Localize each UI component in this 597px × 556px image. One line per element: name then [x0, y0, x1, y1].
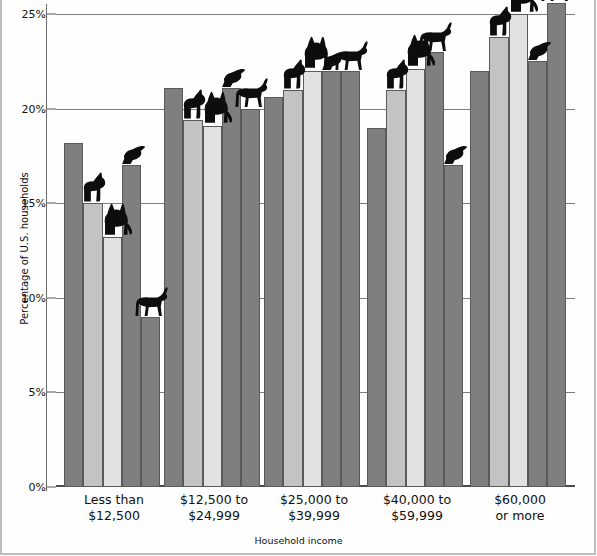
bar [241, 109, 260, 487]
bar [367, 128, 386, 487]
y-tick-label: 20% [22, 102, 46, 115]
bar [303, 71, 322, 487]
bar [203, 126, 222, 487]
y-tick-label: 15% [22, 197, 46, 210]
x-axis-categories: Less than$12,500$12,500 to$24,999$25,000… [56, 492, 581, 536]
bar [528, 61, 547, 487]
y-tick-mark [47, 297, 56, 298]
bar [103, 237, 122, 487]
bar [183, 120, 202, 487]
bar [444, 165, 463, 487]
x-category-line: $60,000 [457, 492, 583, 508]
y-tick-mark [47, 14, 56, 15]
bar [283, 90, 302, 487]
bar [509, 14, 528, 487]
plot-area [56, 0, 581, 487]
bar-group [164, 0, 264, 487]
bar [489, 37, 508, 487]
y-tick-label: 10% [22, 291, 46, 304]
y-tick-mark [47, 203, 56, 204]
y-tick-mark [47, 108, 56, 109]
x-category-label: $60,000or more [457, 492, 583, 524]
x-category-line: or more [457, 508, 583, 524]
bar [141, 317, 160, 487]
y-tick-label: 25% [22, 8, 46, 21]
bar-group [367, 0, 467, 487]
bar [64, 143, 83, 487]
bar [83, 203, 102, 487]
y-tick-mark [47, 487, 56, 488]
y-tick-mark [47, 392, 56, 393]
bar [470, 71, 489, 487]
bar [264, 97, 283, 487]
bar [547, 3, 566, 487]
chart-figure: Percentage of U.S. households 0%5%10%15%… [0, 0, 597, 556]
y-axis-line [46, 4, 47, 491]
bar-group [264, 0, 364, 487]
bar [322, 71, 341, 487]
x-axis-title: Household income [0, 535, 597, 546]
bar [122, 165, 141, 487]
y-axis: Percentage of U.S. households 0%5%10%15%… [0, 0, 56, 487]
bar [222, 88, 241, 487]
y-axis-title: Percentage of U.S. households [19, 129, 30, 369]
bar [164, 88, 183, 487]
bar-group [64, 0, 164, 487]
y-tick-label: 5% [29, 386, 46, 399]
bar [386, 90, 405, 487]
y-tick-label: 0% [29, 481, 46, 494]
bar [406, 69, 425, 487]
bar-group [470, 0, 570, 487]
bar [341, 71, 360, 487]
bar-groups [56, 0, 581, 487]
bar [425, 52, 444, 487]
